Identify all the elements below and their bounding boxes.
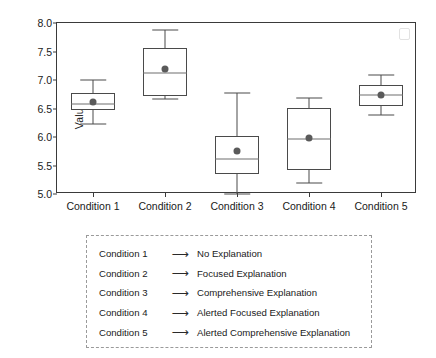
legend-row: Condition 3⟶Comprehensive Explanation	[99, 283, 365, 303]
legend-condition-label: Condition 2	[99, 268, 163, 279]
boxplot-figure: Values 8.07.57.06.56.05.55.0 Condition 1…	[0, 0, 436, 358]
x-tick-mark	[309, 192, 310, 197]
box-plot-item	[57, 23, 129, 192]
x-tick-label: Condition 3	[210, 200, 263, 212]
whisker-lower	[237, 174, 238, 194]
whisker-lower	[309, 170, 310, 183]
whisker-cap-upper	[368, 75, 394, 76]
whisker-cap-lower	[296, 183, 322, 184]
x-tick-label: Condition 2	[138, 200, 191, 212]
legend-description-label: Alerted Comprehensive Explanation	[197, 327, 350, 338]
legend-row: Condition 5⟶Alerted Comprehensive Explan…	[99, 322, 365, 342]
arrow-right-icon: ⟶	[163, 307, 197, 319]
y-tick-label: 7.0	[37, 74, 52, 86]
legend-row: Condition 4⟶Alerted Focused Explanation	[99, 303, 365, 323]
legend-description-label: No Explanation	[197, 248, 262, 259]
whisker-cap-lower	[224, 194, 250, 195]
arrow-right-icon: ⟶	[163, 326, 197, 338]
whisker-upper	[309, 98, 310, 108]
x-tick-label: Condition 1	[66, 200, 119, 212]
legend-condition-label: Condition 4	[99, 307, 163, 318]
mean-marker	[90, 98, 97, 105]
x-tick-mark	[381, 192, 382, 197]
y-tick-label: 8.0	[37, 17, 52, 29]
plot-area: Values 8.07.57.06.56.05.55.0 Condition 1…	[56, 22, 416, 193]
legend-description-label: Comprehensive Explanation	[197, 287, 317, 298]
mean-marker	[306, 134, 313, 141]
whisker-upper	[165, 30, 166, 47]
legend-condition-label: Condition 3	[99, 287, 163, 298]
x-tick-mark	[165, 192, 166, 197]
legend-description-label: Alerted Focused Explanation	[197, 307, 320, 318]
whisker-cap-upper	[224, 93, 250, 94]
box-plot-item	[273, 23, 345, 192]
legend-row: Condition 2⟶Focused Explanation	[99, 264, 365, 284]
y-tick-label: 7.5	[37, 46, 52, 58]
box-plot-item	[201, 23, 273, 192]
legend-description-label: Focused Explanation	[197, 268, 287, 279]
whisker-upper	[237, 93, 238, 136]
legend-condition-label: Condition 1	[99, 248, 163, 259]
arrow-right-icon: ⟶	[163, 287, 197, 299]
arrow-right-icon: ⟶	[163, 248, 197, 260]
legend-row: Condition 1⟶No Explanation	[99, 244, 365, 264]
mean-marker	[162, 66, 169, 73]
whisker-lower	[93, 110, 94, 124]
whisker-upper	[381, 75, 382, 84]
whisker-cap-upper	[296, 98, 322, 99]
whisker-cap-upper	[80, 80, 106, 81]
legend-list: Condition 1⟶No ExplanationCondition 2⟶Fo…	[99, 244, 365, 342]
y-tick-label: 6.5	[37, 103, 52, 115]
whisker-cap-lower	[80, 123, 106, 124]
y-tick-label: 6.0	[37, 131, 52, 143]
mean-marker	[378, 91, 385, 98]
whisker-cap-lower	[152, 98, 178, 99]
x-tick-label: Condition 5	[354, 200, 407, 212]
whisker-cap-lower	[368, 114, 394, 115]
y-tick-mark	[53, 194, 57, 195]
arrow-right-icon: ⟶	[163, 267, 197, 279]
x-tick-label: Condition 4	[282, 200, 335, 212]
legend-condition-label: Condition 5	[99, 327, 163, 338]
box-iqr	[215, 136, 259, 174]
median-line	[215, 159, 259, 160]
mean-marker	[234, 147, 241, 154]
box-plot-item	[345, 23, 417, 192]
box-plot-item	[129, 23, 201, 192]
y-tick-label: 5.5	[37, 160, 52, 172]
x-tick-mark	[93, 192, 94, 197]
legend-panel: Condition 1⟶No ExplanationCondition 2⟶Fo…	[86, 235, 372, 348]
whisker-upper	[93, 80, 94, 93]
y-tick-label: 5.0	[37, 188, 52, 200]
whisker-cap-upper	[152, 30, 178, 31]
